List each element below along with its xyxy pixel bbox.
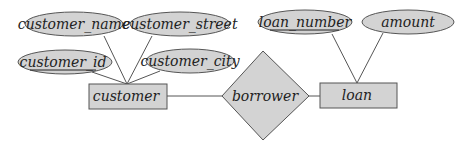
attribute-label: customer_name	[18, 16, 130, 33]
er-diagram: customer_name customer_street customer_i…	[0, 0, 470, 152]
relationship-label: borrower	[232, 88, 299, 104]
attribute-customer-id[interactable]: customer_id	[18, 50, 112, 74]
entity-label: customer	[93, 88, 161, 104]
attribute-customer-street[interactable]: customer_street	[122, 12, 237, 36]
attribute-label: amount	[381, 14, 435, 30]
attribute-customer-city[interactable]: customer_city	[140, 49, 240, 73]
edge-customer-city	[127, 71, 160, 84]
entity-loan[interactable]: loan	[320, 83, 397, 108]
entity-customer[interactable]: customer	[89, 84, 167, 109]
attribute-loan-number[interactable]: loan_number	[258, 10, 353, 34]
edge-amount	[357, 33, 383, 83]
entity-label: loan	[342, 87, 372, 103]
attribute-label: customer_city	[140, 53, 240, 70]
attribute-label: loan_number	[259, 14, 353, 31]
attribute-amount[interactable]: amount	[362, 10, 454, 34]
attribute-label: customer_street	[122, 16, 237, 33]
attribute-label: customer_id	[20, 54, 107, 71]
edge-loan-number	[332, 34, 357, 83]
attribute-customer-name[interactable]: customer_name	[18, 12, 130, 36]
